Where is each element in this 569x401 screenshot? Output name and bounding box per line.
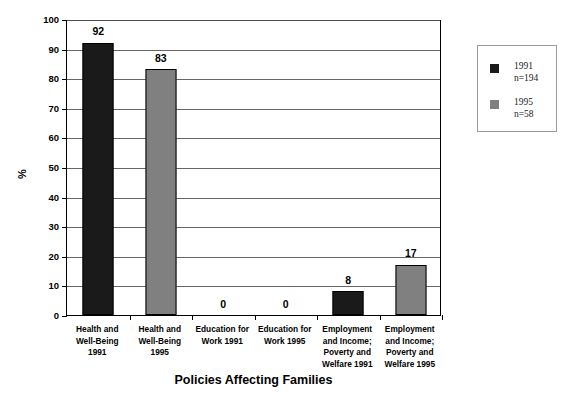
bars-layer: 928300817 bbox=[67, 20, 440, 315]
x-axis-category-label: Education forWork 1995 bbox=[254, 324, 317, 347]
y-axis-tick-mark bbox=[62, 316, 67, 317]
bar-slot: 0 bbox=[192, 20, 255, 315]
bar-slot: 17 bbox=[380, 20, 443, 315]
x-axis-tick-mark bbox=[442, 315, 443, 320]
plot-area: 1009080706050403020100 928300817 bbox=[66, 20, 441, 316]
bar-slot: 0 bbox=[255, 20, 318, 315]
x-axis-tick-mark bbox=[380, 315, 381, 320]
x-axis-category-label-line: Well-Being bbox=[66, 336, 129, 348]
x-axis-category-label-line: Work 1995 bbox=[254, 336, 317, 348]
x-axis-category-label-line: Well-Being bbox=[129, 336, 192, 348]
bar-value-label: 0 bbox=[283, 299, 289, 310]
x-axis-category-label-line: and Income; bbox=[379, 336, 442, 348]
x-axis-category-label-line: Welfare 1991 bbox=[316, 359, 379, 371]
y-axis-title: % bbox=[16, 169, 28, 179]
bar[interactable] bbox=[333, 291, 364, 315]
x-axis-category-label: Employmentand Income;Poverty andWelfare … bbox=[379, 324, 442, 370]
x-axis-category-label: Health andWell-Being1991 bbox=[66, 324, 129, 359]
bar[interactable] bbox=[83, 43, 114, 315]
x-axis-tick-mark bbox=[192, 315, 193, 320]
bar-value-label: 17 bbox=[405, 248, 417, 259]
x-axis-category-label-line: Employment bbox=[316, 324, 379, 336]
y-axis-tick-label: 50 bbox=[48, 163, 59, 173]
x-axis-tick-mark bbox=[255, 315, 256, 320]
x-axis-category-label-line: Work 1991 bbox=[191, 336, 254, 348]
x-axis-category-label-line: and Income; bbox=[316, 336, 379, 348]
legend-label-year: 1991 bbox=[514, 60, 538, 72]
y-axis-tick-label: 80 bbox=[48, 74, 59, 84]
x-axis-category-label-line: Health and bbox=[66, 324, 129, 336]
bar-chart-figure: % 1009080706050403020100 928300817 Healt… bbox=[0, 0, 569, 401]
legend-label: 1991n=194 bbox=[514, 60, 538, 84]
x-axis-category-label-line: Education for bbox=[254, 324, 317, 336]
x-axis-category-label: Health andWell-Being1995 bbox=[129, 324, 192, 359]
x-axis-category-label-line: Education for bbox=[191, 324, 254, 336]
x-axis-tick-mark bbox=[130, 315, 131, 320]
bar-slot: 8 bbox=[317, 20, 380, 315]
bar-slot: 92 bbox=[67, 20, 130, 315]
x-axis-category-label-line: Poverty and bbox=[316, 347, 379, 359]
x-axis-category-labels: Health andWell-Being1991Health andWell-B… bbox=[66, 324, 441, 376]
y-axis-tick-label: 100 bbox=[43, 15, 59, 25]
legend-label-count: n=194 bbox=[514, 72, 538, 84]
legend-entry[interactable]: 1991n=194 bbox=[478, 60, 556, 90]
legend-entry[interactable]: 1995n=58 bbox=[478, 96, 556, 126]
bar[interactable] bbox=[145, 69, 176, 315]
x-axis-category-label-line: 1991 bbox=[66, 347, 129, 359]
chart-legend: 1991n=1941995n=58 bbox=[477, 45, 557, 132]
legend-label-year: 1995 bbox=[514, 96, 534, 108]
legend-label: 1995n=58 bbox=[514, 96, 534, 120]
y-axis-tick-label: 40 bbox=[48, 193, 59, 203]
x-axis-category-label-line: Employment bbox=[379, 324, 442, 336]
y-axis-tick-label: 70 bbox=[48, 104, 59, 114]
x-axis-tick-mark bbox=[317, 315, 318, 320]
bar-value-label: 83 bbox=[155, 53, 167, 64]
x-axis-category-label-line: Poverty and bbox=[379, 347, 442, 359]
y-axis-tick-label: 60 bbox=[48, 134, 59, 144]
x-axis-category-label-line: Health and bbox=[129, 324, 192, 336]
legend-swatch-icon bbox=[490, 100, 499, 109]
bar-value-label: 0 bbox=[220, 299, 226, 310]
bar-value-label: 8 bbox=[345, 275, 351, 286]
y-axis-tick-label: 90 bbox=[48, 45, 59, 55]
y-axis-tick-label: 20 bbox=[48, 252, 59, 262]
x-axis-category-label-line: 1995 bbox=[129, 347, 192, 359]
y-axis-tick-label: 0 bbox=[54, 311, 59, 321]
x-axis-category-label-line: Welfare 1995 bbox=[379, 359, 442, 371]
bar-slot: 83 bbox=[130, 20, 193, 315]
x-axis-category-label: Employmentand Income;Poverty andWelfare … bbox=[316, 324, 379, 370]
legend-label-count: n=58 bbox=[514, 108, 534, 120]
x-axis-category-label: Education forWork 1991 bbox=[191, 324, 254, 347]
bar[interactable] bbox=[395, 265, 426, 315]
y-axis-tick-label: 10 bbox=[48, 282, 59, 292]
y-axis-tick-label: 30 bbox=[48, 222, 59, 232]
legend-swatch-icon bbox=[490, 64, 499, 73]
x-axis-title: Policies Affecting Families bbox=[66, 373, 441, 387]
bar-value-label: 92 bbox=[92, 26, 104, 37]
